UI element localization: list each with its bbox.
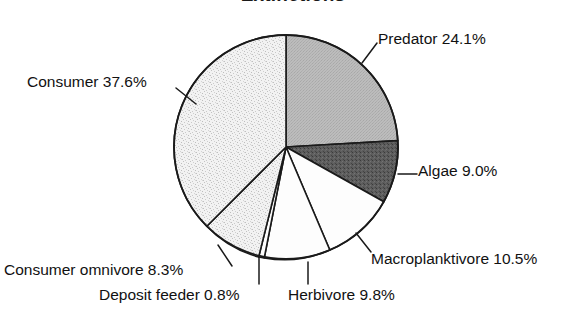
- leader-line-predator: [362, 43, 377, 63]
- pie-label-predator: Predator 24.1%: [378, 30, 486, 47]
- pie-label-macroplanktivore: Macroplanktivore 10.5%: [371, 250, 537, 267]
- pie-label-deposit-feeder: Deposit feeder 0.8%: [99, 286, 239, 303]
- pie-chart-canvas: [0, 0, 586, 328]
- pie-label-herbivore: Herbivore 9.8%: [288, 286, 395, 303]
- pie-chart-figure: Extinctions: [0, 0, 586, 328]
- pie-label-consumer-omnivore: Consumer omnivore 8.3%: [4, 261, 183, 278]
- pie-label-algae: Algae 9.0%: [418, 162, 497, 179]
- leader-line-consumer-omnivore: [218, 245, 232, 266]
- leader-line-macroplanktivore: [356, 233, 371, 252]
- pie-label-consumer: Consumer 37.6%: [27, 73, 147, 90]
- pie-slice-predator[interactable]: [286, 35, 398, 147]
